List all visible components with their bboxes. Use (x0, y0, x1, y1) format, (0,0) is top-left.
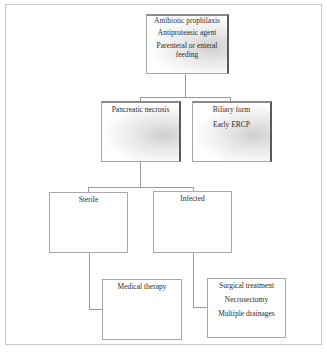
node-root: Antibiotic prophilaxis Antiproteasic age… (146, 14, 229, 74)
connector-sterile-down (89, 253, 90, 310)
node-surgical-treatment-line-3: Multiple drainages (208, 309, 285, 318)
node-surgical-treatment: Surgical treatment Necrosectomy Multiple… (207, 278, 286, 338)
node-biliary-form-line-1: Biliary form (193, 105, 270, 114)
connector-level2-bar (140, 97, 231, 98)
node-root-line-1: Antibiotic prophilaxis (147, 16, 227, 25)
node-surgical-treatment-line-1: Surgical treatment (208, 281, 285, 290)
node-medical-therapy: Medical therapy (102, 279, 182, 340)
connector-infected-right (193, 307, 207, 308)
connector-root-down (185, 74, 186, 98)
node-biliary-form: Biliary form Early ERCP (192, 101, 272, 162)
node-biliary-form-line-2: Early ERCP (193, 120, 270, 129)
connector-pancreatic-down (140, 162, 141, 188)
node-sterile-label: Sterile (50, 195, 127, 204)
node-sterile: Sterile (49, 192, 128, 253)
connector-sterile-right (89, 309, 102, 310)
connector-level3-bar (88, 187, 194, 188)
connector-infected-down (193, 253, 194, 308)
node-root-line-2: Antiproteasic agent (147, 28, 227, 37)
node-pancreatic-necrosis: Pancreatic necrosis (101, 101, 181, 162)
node-infected-label: Infected (154, 194, 231, 203)
node-surgical-treatment-line-2: Necrosectomy (208, 295, 285, 304)
node-infected: Infected (153, 191, 232, 253)
node-medical-therapy-label: Medical therapy (103, 282, 181, 291)
node-root-line-3: Parenteral or enteral feeding (147, 41, 227, 59)
node-pancreatic-necrosis-label: Pancreatic necrosis (102, 105, 179, 114)
